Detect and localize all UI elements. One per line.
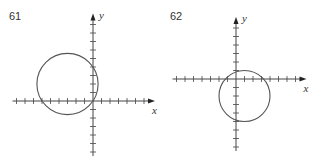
- x-arrow-icon: [148, 99, 155, 104]
- graph-61: xy: [13, 9, 158, 157]
- x-arrow-icon: [300, 77, 307, 82]
- graph-62: xy: [173, 12, 309, 151]
- y-arrow-icon: [234, 17, 239, 24]
- y-arrow-icon: [91, 14, 96, 21]
- y-axis-label: y: [98, 9, 104, 21]
- y-axis-label: y: [241, 12, 247, 24]
- graphs-canvas: xy xy: [0, 0, 315, 162]
- circle-curve: [37, 53, 98, 114]
- x-axis-label: x: [303, 82, 309, 94]
- x-axis-label: x: [151, 104, 157, 116]
